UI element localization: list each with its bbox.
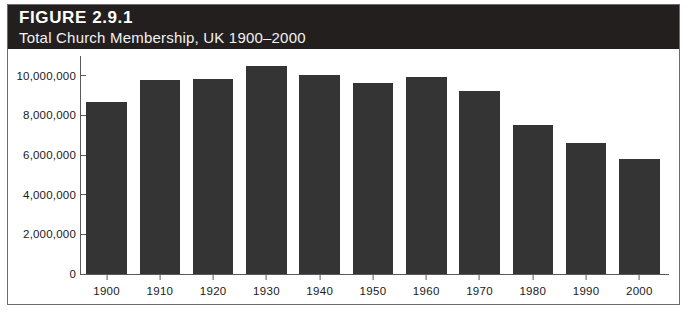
bar bbox=[353, 83, 393, 274]
bar bbox=[459, 91, 499, 274]
bar bbox=[86, 102, 126, 274]
x-axis-tick: 1920 bbox=[200, 275, 227, 297]
x-axis-tick-mark bbox=[319, 275, 320, 280]
y-axis-tick-label: 2,000,000 bbox=[23, 228, 80, 240]
bar bbox=[299, 75, 339, 274]
figure-caption-text: Total Church Membership, UK 1900–2000 bbox=[19, 28, 679, 47]
y-axis-tick: 2,000,000 bbox=[23, 228, 80, 240]
y-axis-tick: 8,000,000 bbox=[23, 109, 80, 121]
x-axis-tick-mark bbox=[426, 275, 427, 280]
x-axis-tick: 1980 bbox=[519, 275, 546, 297]
y-axis-tick: 0 bbox=[69, 268, 80, 280]
bar bbox=[513, 125, 553, 274]
x-axis-tick-mark bbox=[106, 275, 107, 280]
x-axis-tick-mark bbox=[479, 275, 480, 280]
y-axis-tick-mark bbox=[80, 234, 86, 235]
figure-caption-bar: FIGURE 2.9.1 Total Church Membership, UK… bbox=[8, 5, 679, 49]
y-axis-tick: 10,000,000 bbox=[16, 70, 80, 82]
y-axis-tick-mark bbox=[80, 115, 86, 116]
x-axis-tick-label: 1960 bbox=[413, 285, 440, 297]
bar bbox=[193, 79, 233, 274]
x-axis-tick-mark bbox=[532, 275, 533, 280]
x-axis-tick: 2000 bbox=[626, 275, 653, 297]
x-axis-tick-label: 1900 bbox=[93, 285, 120, 297]
y-axis-tick-label: 4,000,000 bbox=[23, 189, 80, 201]
figure-number-label: FIGURE 2.9.1 bbox=[19, 8, 679, 28]
x-axis-tick-label: 1950 bbox=[360, 285, 387, 297]
bar bbox=[140, 80, 180, 274]
x-axis-tick-mark bbox=[639, 275, 640, 280]
x-axis-tick: 1940 bbox=[306, 275, 333, 297]
x-axis-tick: 1900 bbox=[93, 275, 120, 297]
x-axis-tick-label: 1980 bbox=[519, 285, 546, 297]
x-axis-tick: 1910 bbox=[147, 275, 174, 297]
y-axis-tick-label: 0 bbox=[69, 268, 80, 280]
y-axis-tick-mark bbox=[80, 194, 86, 195]
bar bbox=[406, 77, 446, 274]
x-axis-tick-mark bbox=[159, 275, 160, 280]
bar bbox=[619, 159, 659, 274]
x-axis-tick-mark bbox=[372, 275, 373, 280]
plot-area: 02,000,0004,000,0006,000,0008,000,00010,… bbox=[80, 56, 666, 274]
figure-container: FIGURE 2.9.1 Total Church Membership, UK… bbox=[0, 0, 688, 318]
y-axis-tick-label: 8,000,000 bbox=[23, 109, 80, 121]
y-axis-tick: 4,000,000 bbox=[23, 189, 80, 201]
y-axis-tick-mark bbox=[80, 75, 86, 76]
x-axis-tick: 1960 bbox=[413, 275, 440, 297]
x-axis-tick-label: 1930 bbox=[253, 285, 280, 297]
x-axis-tick-label: 1920 bbox=[200, 285, 227, 297]
x-axis-tick-label: 2000 bbox=[626, 285, 653, 297]
x-axis-tick: 1990 bbox=[573, 275, 600, 297]
x-axis-tick-mark bbox=[266, 275, 267, 280]
x-axis-tick: 1970 bbox=[466, 275, 493, 297]
x-axis-tick-label: 1970 bbox=[466, 285, 493, 297]
x-axis-tick: 1950 bbox=[360, 275, 387, 297]
bar bbox=[246, 66, 286, 274]
x-axis-ticks: 1900191019201930194019501960197019801990… bbox=[80, 275, 666, 315]
x-axis-tick-label: 1990 bbox=[573, 285, 600, 297]
y-axis-tick-label: 6,000,000 bbox=[23, 149, 80, 161]
y-axis-tick-label: 10,000,000 bbox=[16, 70, 80, 82]
y-axis-tick-mark bbox=[80, 155, 86, 156]
x-axis-tick-mark bbox=[213, 275, 214, 280]
bar bbox=[566, 143, 606, 274]
y-axis-tick: 6,000,000 bbox=[23, 149, 80, 161]
x-axis-tick-label: 1940 bbox=[306, 285, 333, 297]
bar-series bbox=[80, 56, 666, 274]
x-axis-tick-mark bbox=[586, 275, 587, 280]
x-axis-tick-label: 1910 bbox=[147, 285, 174, 297]
x-axis-tick: 1930 bbox=[253, 275, 280, 297]
